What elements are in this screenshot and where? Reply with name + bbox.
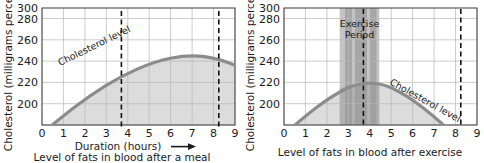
- y-tick-200: 200: [259, 98, 280, 111]
- x-tick-3: 3: [103, 127, 110, 140]
- y-axis-label: Cholesterol (milligrams percent): [2, 0, 14, 151]
- panel-caption: Level of fats in blood after exercise: [278, 146, 462, 158]
- x-tick-1: 1: [302, 127, 309, 140]
- x-tick-0: 0: [39, 127, 46, 140]
- x-tick-8: 8: [210, 127, 217, 140]
- y-tick-labels: 300 280 260 240 220 200: [259, 2, 280, 111]
- y-axis-label: Cholesterol (milligrams percent): [244, 0, 256, 151]
- x-tick-9: 9: [474, 127, 481, 140]
- x-tick-3: 3: [345, 127, 352, 140]
- x-tick-9: 9: [232, 127, 239, 140]
- panel-caption: Level of fats in blood after a meal: [34, 151, 211, 163]
- y-tick-220: 220: [259, 76, 280, 89]
- x-tick-5: 5: [146, 127, 153, 140]
- x-tick-4: 4: [124, 127, 131, 140]
- x-tick-0: 0: [281, 127, 288, 140]
- x-tick-5: 5: [388, 127, 395, 140]
- x-tick-8: 8: [452, 127, 459, 140]
- exercise-period-label-line2: Period: [345, 29, 375, 40]
- y-tick-280: 280: [17, 13, 38, 26]
- x-tick-1: 1: [60, 127, 67, 140]
- y-tick-260: 260: [259, 34, 280, 47]
- chart-panel-left: 300 280 260 240 220 200 0 1 2 3 4 5 6 7 …: [0, 0, 242, 163]
- y-tick-260: 260: [17, 34, 38, 47]
- y-tick-200: 200: [17, 98, 38, 111]
- exercise-period-label-line1: Exercise: [340, 18, 380, 29]
- x-tick-4: 4: [366, 127, 373, 140]
- x-tick-6: 6: [167, 127, 174, 140]
- x-tick-2: 2: [81, 127, 88, 140]
- y-tick-240: 240: [17, 55, 38, 68]
- left-chart-svg: 300 280 260 240 220 200 0 1 2 3 4 5 6 7 …: [0, 0, 242, 163]
- exercise-period-label: Exercise Period: [340, 18, 380, 40]
- arrow-right-icon: [171, 143, 196, 150]
- chart-panel-right: Exercise Period 300 280 260 240 220 200 …: [242, 0, 484, 163]
- cholesterol-figure: 300 280 260 240 220 200 0 1 2 3 4 5 6 7 …: [0, 0, 484, 163]
- x-tick-2: 2: [323, 127, 330, 140]
- right-chart-svg: Exercise Period 300 280 260 240 220 200 …: [242, 0, 484, 163]
- x-tick-labels: 0 1 2 3 4 5 6 7 8 9: [39, 127, 239, 140]
- x-tick-labels: 0 1 2 3 4 5 6 7 8 9: [281, 127, 481, 140]
- x-tick-6: 6: [409, 127, 416, 140]
- y-tick-220: 220: [17, 76, 38, 89]
- x-tick-7: 7: [189, 127, 196, 140]
- y-tick-labels: 300 280 260 240 220 200: [17, 2, 38, 111]
- y-tick-240: 240: [259, 55, 280, 68]
- y-tick-280: 280: [259, 13, 280, 26]
- x-tick-7: 7: [431, 127, 438, 140]
